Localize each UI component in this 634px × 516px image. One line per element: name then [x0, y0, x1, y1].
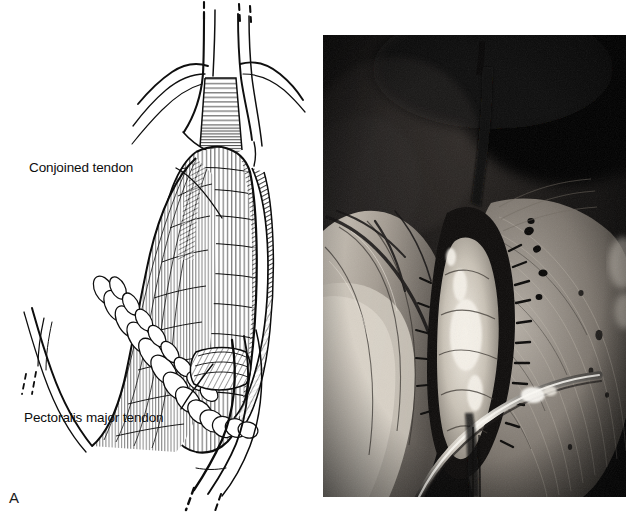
- panel-a-letter: A: [9, 490, 19, 505]
- lower-left-skin-edge: [24, 308, 92, 452]
- intraoperative-photo: [323, 35, 626, 497]
- dashed-proximal-ends: [204, 2, 251, 22]
- panel-b-photograph: B: [323, 35, 626, 497]
- drawing-ink: [22, 2, 305, 514]
- callout-conjoined-tendon-label: Conjoined tendon: [29, 161, 133, 175]
- panel-a-line-drawing: Conjoined tendon Pectoralis major tendon…: [0, 0, 317, 516]
- lower-left-dashed-end: [22, 372, 36, 394]
- panel-a-illustration: [0, 0, 317, 516]
- lower-right-dashed-ends: [186, 488, 221, 514]
- figure-root: Conjoined tendon Pectoralis major tendon…: [0, 0, 634, 516]
- callout-pectoralis-major-tendon-label: Pectoralis major tendon: [24, 411, 164, 425]
